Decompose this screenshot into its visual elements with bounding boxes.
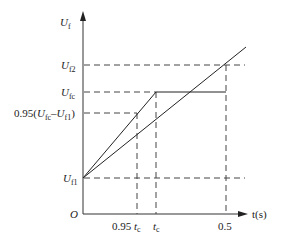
ytick-ufc: Ufc [61,86,76,101]
x-axis-label: t(s) [252,208,267,221]
xtick-tc: tc [153,220,160,234]
y-axis-label: Uf [60,16,71,31]
ytick-uf1: Uf1 [63,172,78,187]
ytick-095: 0.95(Ufc–Uf1) [14,107,75,122]
voltage-time-diagram: Uf Uf2 Ufc 0.95(Ufc–Uf1) Uf1 O 0.95 tc t… [0,0,283,242]
ytick-uf2: Uf2 [61,59,76,74]
origin-label: O [70,208,78,220]
xtick-095tc: 0.95 tc [112,220,141,234]
x-axis-arrow-icon [238,211,248,217]
steep-curve [83,92,226,178]
xtick-05: 0.5 [218,220,232,232]
y-axis-arrow-icon [80,11,86,21]
